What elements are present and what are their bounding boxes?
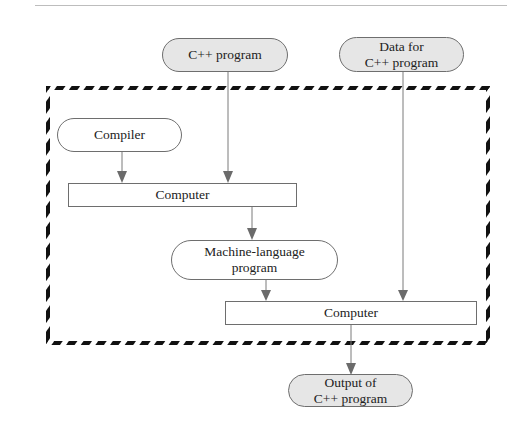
node-cpp-program: C++ program — [162, 38, 288, 72]
arrowhead-icon — [261, 290, 271, 301]
node-label: Machine-language program — [204, 244, 304, 276]
node-computer-2: Computer — [225, 301, 477, 325]
node-compiler: Compiler — [57, 118, 182, 152]
arrowhead-icon — [223, 171, 233, 183]
node-label: Computer — [324, 305, 378, 321]
arrowhead-icon — [247, 228, 257, 240]
node-label: Compiler — [94, 127, 145, 143]
node-data-for-cpp: Data for C++ program — [339, 37, 464, 72]
node-computer-1: Computer — [68, 183, 297, 207]
node-output: Output of C++ program — [288, 374, 413, 407]
arrowhead-icon — [398, 290, 408, 301]
node-label: C++ program — [188, 47, 261, 63]
node-label: Data for C++ program — [365, 39, 438, 71]
node-label: Computer — [156, 187, 210, 203]
node-label: Output of C++ program — [314, 375, 387, 407]
arrowhead-icon — [117, 171, 127, 183]
node-machine-language: Machine-language program — [171, 240, 338, 280]
